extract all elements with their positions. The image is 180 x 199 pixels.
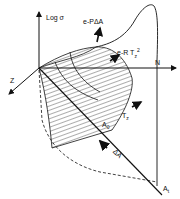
delta-a-arrow bbox=[100, 141, 107, 148]
z-axis-label: Z bbox=[10, 77, 14, 84]
diagram-canvas bbox=[0, 0, 180, 199]
at-label: At bbox=[163, 185, 169, 194]
tz-label: Tz bbox=[122, 112, 129, 121]
log-sigma-label: Log σ bbox=[46, 14, 64, 21]
n-axis-label: N bbox=[155, 59, 160, 66]
pressure-arrow bbox=[97, 28, 100, 42]
temperature-term-label: e-R Tz2 bbox=[117, 48, 140, 59]
pressure-term-label: e-PΔA bbox=[83, 18, 103, 25]
tz-arrow bbox=[132, 102, 141, 107]
a0-label: A0 bbox=[102, 121, 109, 130]
hatched-surface bbox=[39, 47, 132, 148]
